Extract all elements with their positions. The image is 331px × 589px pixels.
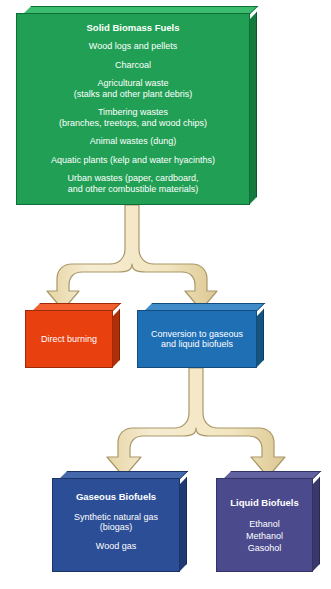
node-line: Timbering wastes (branches, treetops, an… xyxy=(59,107,207,128)
biomass-flow-diagram: Solid Biomass Fuels Wood logs and pellet… xyxy=(0,0,331,589)
node-line: Animal wastes (dung) xyxy=(90,136,177,147)
node-face: Conversion to gaseous and liquid biofuel… xyxy=(137,310,257,368)
node-gaseous-biofuels: Gaseous Biofuels Synthetic natural gas (… xyxy=(52,478,180,572)
node-heading: Liquid Biofuels xyxy=(230,497,299,509)
node-face: Gaseous Biofuels Synthetic natural gas (… xyxy=(52,478,180,572)
node-line: Ethanol Methanol Gasohol xyxy=(246,518,283,554)
box-side-bevel xyxy=(256,309,264,368)
node-line: Urban wastes (paper, cardboard, and othe… xyxy=(67,173,198,194)
arrow-conversion-to-biofuels xyxy=(107,368,285,477)
box-side-bevel xyxy=(179,477,187,572)
box-side-bevel xyxy=(249,12,257,205)
node-liquid-biofuels: Liquid Biofuels Ethanol Methanol Gasohol xyxy=(216,478,313,572)
node-direct-burning: Direct burning xyxy=(25,310,113,368)
box-side-bevel xyxy=(312,477,320,572)
node-line: Synthetic natural gas (biogas) xyxy=(74,512,158,533)
node-line: Wood logs and pellets xyxy=(89,41,177,52)
node-face: Solid Biomass Fuels Wood logs and pellet… xyxy=(16,13,250,205)
node-heading: Solid Biomass Fuels xyxy=(87,22,180,34)
node-line: Wood gas xyxy=(96,541,136,552)
node-line: Aquatic plants (kelp and water hyacinths… xyxy=(51,155,215,166)
node-line: Charcoal xyxy=(115,60,151,71)
node-face: Direct burning xyxy=(25,310,113,368)
node-line: Agricultural waste (stalks and other pla… xyxy=(74,78,193,99)
node-heading: Gaseous Biofuels xyxy=(76,491,156,503)
arrow-biomass-to-processes xyxy=(47,205,217,310)
node-face: Liquid Biofuels Ethanol Methanol Gasohol xyxy=(216,478,313,572)
node-conversion: Conversion to gaseous and liquid biofuel… xyxy=(137,310,257,368)
node-line: Direct burning xyxy=(41,334,97,345)
node-line: Conversion to gaseous and liquid biofuel… xyxy=(151,329,243,350)
box-side-bevel xyxy=(112,309,120,368)
node-solid-biomass-fuels: Solid Biomass Fuels Wood logs and pellet… xyxy=(16,13,250,205)
